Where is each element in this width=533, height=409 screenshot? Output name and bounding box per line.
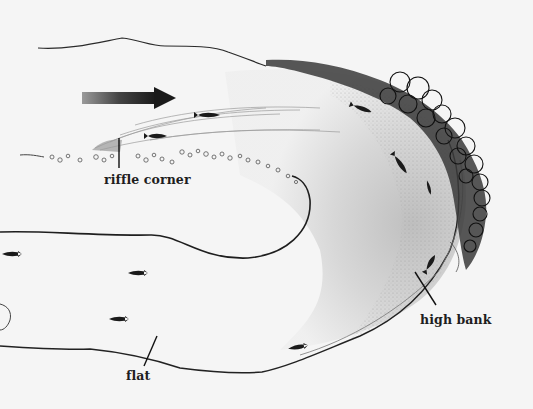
- riffle-shading: [92, 139, 122, 152]
- fish-icon: [128, 270, 148, 276]
- label-riffle-corner: riffle corner: [104, 172, 191, 187]
- rock-outline: [0, 304, 11, 330]
- flow-arrow-icon: [82, 87, 176, 109]
- label-high-bank: high bank: [420, 312, 492, 327]
- far-bank-line: [38, 38, 266, 66]
- riffle-edge-line: [20, 155, 44, 157]
- inner-bank-line: [0, 176, 310, 258]
- river-bend-diagram: riffle corner high bank flat: [0, 0, 533, 409]
- fish-icon: [2, 251, 22, 257]
- label-flat: flat: [126, 368, 150, 383]
- fish-icon: [109, 316, 129, 322]
- river-illustration: [0, 0, 533, 409]
